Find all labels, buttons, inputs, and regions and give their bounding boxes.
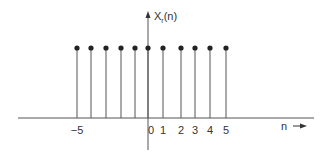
x-axis-label: n (281, 120, 307, 132)
stem-marker (132, 45, 137, 50)
stems (74, 45, 228, 118)
stem-marker (223, 45, 228, 50)
x-axis-label-arrow-icon (300, 124, 307, 129)
stem-marker (103, 45, 108, 50)
stem-marker (207, 45, 212, 50)
svg-text:n: n (281, 120, 287, 132)
stem-marker (88, 45, 93, 50)
stem-marker (178, 45, 183, 50)
tick-label: 2 (178, 124, 184, 136)
stem-marker (74, 45, 79, 50)
stem-marker (192, 45, 197, 50)
stem-marker (145, 45, 150, 50)
y-axis-arrow-icon (146, 11, 151, 18)
tick-label: 5 (223, 124, 229, 136)
tick-label: 3 (192, 124, 198, 136)
tick-label: 0 (148, 124, 154, 136)
stem-marker (160, 45, 165, 50)
stem-plot: −5012345 Xr(n) n (0, 0, 327, 159)
tick-labels: −5012345 (71, 124, 229, 136)
tick-label: −5 (71, 124, 84, 136)
y-axis-label: Xr(n) (154, 10, 177, 24)
tick-label: 1 (160, 124, 166, 136)
tick-label: 4 (207, 124, 213, 136)
stem-marker (118, 45, 123, 50)
